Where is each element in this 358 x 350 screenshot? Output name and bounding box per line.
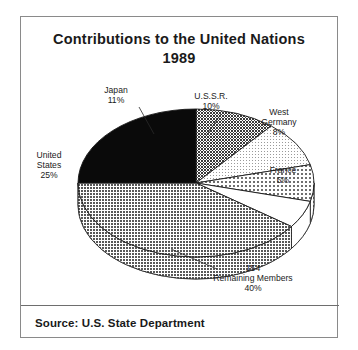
title-line-2: 1989 (21, 49, 337, 68)
chart-title: Contributions to the United Nations 1989 (21, 30, 337, 68)
slice-label-u-s-s-r: U.S.S.R.10% (194, 91, 227, 111)
slice-label-united-states: UnitedStates25% (37, 150, 62, 180)
source-note: Source: U.S. State Department (35, 317, 205, 329)
title-line-1: Contributions to the United Nations (21, 30, 337, 49)
pie-chart-svg: Japan11%U.S.S.R.10%WestGermany8%France6%… (21, 73, 339, 303)
source-divider (21, 305, 339, 306)
slice-label-japan: Japan11% (104, 85, 128, 105)
pie-slice-united-states[interactable] (78, 109, 196, 183)
figure-frame: Contributions to the United Nations 1989 (20, 16, 338, 338)
pie-chart-area: Japan11%U.S.S.R.10%WestGermany8%France6%… (21, 73, 339, 303)
